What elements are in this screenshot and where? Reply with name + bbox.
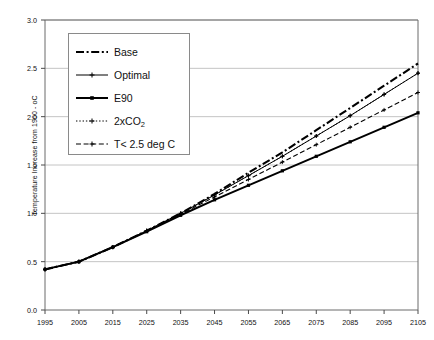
data-point [416,111,419,114]
x-tick-label: 2085 [333,318,367,327]
chart-legend: BaseOptimalE902xCO2T< 2.5 deg C [68,33,190,155]
legend-item: T< 2.5 deg C [75,132,187,156]
y-tick-marks [41,20,45,310]
legend-item: 2xCO2 [75,109,187,133]
x-tick-label: 2015 [96,318,130,327]
legend-item: Optimal [75,63,187,87]
legend-line-sample [75,45,109,59]
x-tick-label: 2045 [198,318,232,327]
y-axis-title: Temperature Increase from 1900 - oC [31,56,38,256]
line-chart [0,0,434,340]
legend-item-label: T< 2.5 deg C [114,139,175,150]
data-point [281,169,284,172]
legend-item: Base [75,40,187,64]
legend-item: E90 [75,86,187,110]
legend-item-label: 2xCO2 [114,116,145,127]
x-tick-label: 2065 [265,318,299,327]
data-point [349,140,352,143]
legend-line-sample [75,114,109,128]
y-tick-label: 1.5 [11,161,37,170]
legend-line-sample [75,68,109,82]
data-point [247,184,250,187]
chart-container: Temperature Increase from 1900 - oC 0.00… [0,0,434,340]
x-tick-label: 2035 [164,318,198,327]
x-tick-marks [45,310,418,314]
legend-item-label: E90 [114,93,133,104]
x-tick-label: 2025 [130,318,164,327]
x-tick-label: 2075 [299,318,333,327]
legend-item-label: Base [114,47,138,58]
x-tick-label: 1995 [28,318,62,327]
x-tick-label: 2095 [367,318,401,327]
legend-line-sample [75,91,109,105]
legend-item-label: Optimal [114,70,150,81]
y-tick-label: 2.0 [11,113,37,122]
data-point [315,155,318,158]
y-tick-label: 1.0 [11,209,37,218]
x-tick-label: 2055 [231,318,265,327]
legend-label-subscript: 2 [141,120,145,129]
y-tick-label: 2.5 [11,64,37,73]
x-tick-label: 2005 [62,318,96,327]
y-tick-label: 0.0 [11,306,37,315]
legend-line-sample [75,137,109,151]
x-tick-label: 2105 [401,318,434,327]
y-tick-label: 0.5 [11,258,37,267]
y-tick-label: 3.0 [11,16,37,25]
data-point [382,126,385,129]
